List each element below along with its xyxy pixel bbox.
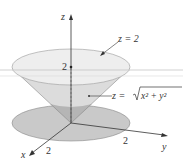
- cone-label-radicand: x² + y²: [140, 91, 166, 101]
- z-axis-label: z: [60, 11, 65, 22]
- z-tick-label: 2: [62, 61, 67, 72]
- z-axis-arrow-icon: [69, 14, 73, 20]
- y-tick-label: 2: [123, 135, 128, 146]
- cone-diagram: z 2 y 2 x 2 z = 2 z = x² + y²: [0, 0, 183, 168]
- cone-leader-dot: [88, 95, 90, 97]
- plane-label: z = 2: [117, 33, 139, 44]
- x-axis-label: x: [20, 149, 26, 160]
- point-z2: [70, 66, 73, 69]
- y-axis-arrow-icon: [161, 133, 168, 137]
- y-axis-label: y: [161, 141, 167, 152]
- cone-label-prefix: z =: [111, 90, 125, 101]
- x-tick-label: 2: [46, 145, 51, 156]
